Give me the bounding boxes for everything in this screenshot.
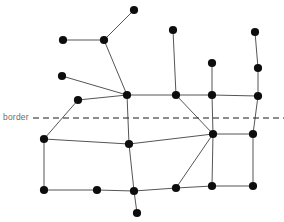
graph-node[interactable] (172, 91, 180, 99)
graph-edge (176, 134, 213, 188)
graph-edge (129, 144, 134, 191)
graph-node[interactable] (208, 182, 216, 190)
graph-edge (104, 40, 127, 95)
graph-edge (44, 100, 78, 139)
graph-node[interactable] (123, 91, 131, 99)
diagram-canvas: border (0, 0, 284, 222)
node-layer (40, 6, 262, 217)
graph-node[interactable] (40, 186, 48, 194)
graph-edge (44, 139, 129, 144)
network-graph (0, 0, 284, 222)
graph-edge (127, 95, 129, 144)
graph-edge (134, 188, 176, 191)
graph-node[interactable] (130, 187, 138, 195)
graph-node[interactable] (125, 140, 133, 148)
graph-edge (173, 30, 176, 95)
graph-edge (78, 95, 127, 100)
graph-edge (212, 95, 213, 134)
graph-edge (129, 134, 213, 144)
graph-node[interactable] (169, 26, 177, 34)
graph-node[interactable] (93, 186, 101, 194)
border-label: border (3, 112, 29, 122)
graph-edge (176, 95, 213, 134)
graph-edge (97, 190, 134, 191)
graph-edge (104, 10, 134, 40)
graph-node[interactable] (59, 36, 67, 44)
graph-node[interactable] (251, 28, 259, 36)
graph-node[interactable] (130, 6, 138, 14)
graph-node[interactable] (209, 130, 217, 138)
graph-edge (176, 186, 212, 188)
graph-edge (212, 95, 258, 96)
graph-edge (212, 134, 213, 186)
graph-node[interactable] (40, 135, 48, 143)
graph-node[interactable] (100, 36, 108, 44)
graph-node[interactable] (74, 96, 82, 104)
graph-node[interactable] (133, 209, 141, 217)
graph-edge (62, 76, 127, 95)
graph-node[interactable] (208, 59, 216, 67)
graph-edge (253, 96, 258, 134)
edge-layer (44, 10, 258, 213)
graph-edge (255, 32, 258, 68)
graph-node[interactable] (254, 64, 262, 72)
graph-node[interactable] (249, 130, 257, 138)
graph-node[interactable] (172, 184, 180, 192)
graph-node[interactable] (208, 91, 216, 99)
graph-node[interactable] (254, 92, 262, 100)
graph-node[interactable] (249, 182, 257, 190)
graph-node[interactable] (58, 72, 66, 80)
